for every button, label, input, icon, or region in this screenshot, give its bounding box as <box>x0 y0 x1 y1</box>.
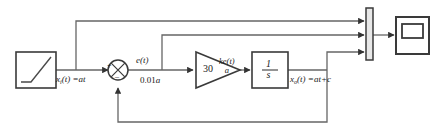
gain-output-denominator: a <box>219 66 235 75</box>
input-expr: (t) =at <box>62 74 86 84</box>
figure-canvas: + – xi(t) =at e(t) 0.01a 30 ke(t) a 1 s … <box>0 0 438 134</box>
gain-value-label: 30 <box>203 64 213 74</box>
ramp-source-block <box>16 52 56 88</box>
error-value-label: 0.01a <box>140 76 160 85</box>
wire-branch-output-to-mux <box>327 52 364 70</box>
integrator-denominator: s <box>266 70 271 81</box>
scope-icon <box>402 24 423 38</box>
error-value-var: a <box>156 75 161 85</box>
integrator-numerator: 1 <box>266 59 271 70</box>
sum-plus-sign: + <box>107 62 112 70</box>
error-signal-label: e(t) <box>136 56 149 65</box>
output-expr: (t) =at+c <box>297 74 331 84</box>
mux-bar <box>366 8 373 60</box>
output-signal-label: xo(t) =at+c <box>290 75 331 85</box>
error-value-prefix: 0.01 <box>140 75 156 85</box>
input-signal-label: xi(t) =at <box>56 75 86 85</box>
integrator-transfer-label: 1 s <box>266 59 271 80</box>
sum-minus-sign: – <box>115 73 119 81</box>
scope-block <box>396 17 429 54</box>
gain-output-label: ke(t) a <box>219 57 235 75</box>
